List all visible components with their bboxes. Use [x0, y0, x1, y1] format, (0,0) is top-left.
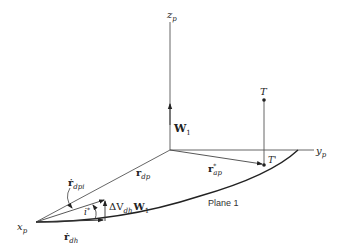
- r-dot-dh-label: ṙdh: [64, 231, 78, 245]
- angle-arc: [93, 205, 96, 219]
- w1-label: W1: [173, 122, 191, 137]
- r-ap-star-label: r*ap: [208, 162, 222, 177]
- angle-label: i*: [84, 206, 90, 217]
- plane-1-label: Plane 1: [208, 198, 239, 208]
- target-point: [262, 98, 266, 102]
- target-projection-point: [262, 163, 266, 167]
- z-axis-label: zp: [166, 9, 177, 23]
- delta-v-label: ΔVdhW1: [109, 201, 149, 215]
- target-label: T: [260, 86, 268, 97]
- r-dp-label: rdp: [136, 167, 151, 181]
- x-axis-label: xp: [17, 221, 28, 235]
- orbit-plane-diagram: zp yp xp W1 T T' r*ap rdp ṙdpi i* ΔVdhW1…: [0, 0, 344, 247]
- y-axis-label: yp: [315, 145, 327, 159]
- r-dp-line: [36, 150, 170, 222]
- target-projection-label: T': [268, 155, 276, 165]
- r-dot-dpi-label: ṙdpi: [68, 177, 84, 191]
